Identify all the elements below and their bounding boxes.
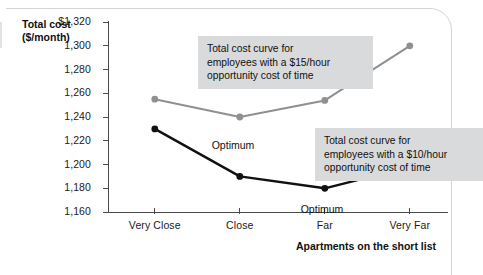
data-point	[236, 173, 243, 180]
data-point	[321, 185, 328, 192]
data-point	[151, 125, 158, 132]
data-point	[236, 114, 243, 121]
total-cost-line-chart: Total cost ($/month) $1,3201,3001,2801,2…	[0, 0, 483, 275]
data-point	[406, 42, 413, 49]
x-axis-title: Apartments on the short list	[296, 240, 436, 252]
data-point	[151, 96, 158, 103]
callout-15-dollar-curve: Total cost curve for employees with a $1…	[198, 36, 373, 89]
callout-10-dollar-curve: Total cost curve for employees with a $1…	[315, 128, 483, 181]
optimum-label-black-series: Optimum	[301, 203, 344, 215]
data-point	[321, 97, 328, 104]
optimum-label-gray-series: Optimum	[212, 139, 255, 151]
